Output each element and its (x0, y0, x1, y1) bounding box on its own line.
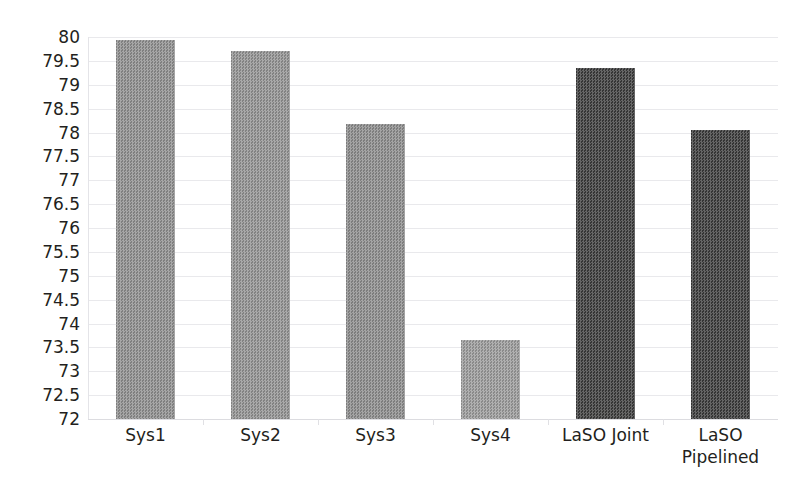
bar-texture (461, 340, 520, 419)
bar-texture (576, 68, 635, 419)
bar-texture (346, 124, 405, 419)
bar-texture (231, 51, 290, 419)
x-axis-labels: Sys1Sys2Sys3Sys4LaSO JointLaSO Pipelined (88, 425, 778, 479)
x-axis-tick-mark (433, 419, 434, 425)
y-axis-tick-label: 72 (58, 409, 80, 429)
x-axis-tick-label: Sys2 (203, 425, 318, 447)
x-axis-tick-mark (318, 419, 319, 425)
x-axis-tick-mark (548, 419, 549, 425)
bar-chart: 8079.57978.57877.57776.57675.57574.57473… (0, 0, 785, 479)
plot-area (88, 37, 778, 419)
bar (691, 130, 750, 419)
bar (346, 124, 405, 419)
y-axis-labels: 8079.57978.57877.57776.57675.57574.57473… (0, 0, 88, 479)
bar (576, 68, 635, 419)
y-axis-tick-label: 80 (58, 27, 80, 47)
y-axis-tick-label: 79 (58, 75, 80, 95)
y-axis-tick-label: 74.5 (42, 290, 80, 310)
x-axis-tick-label: Sys3 (318, 425, 433, 447)
y-axis-tick-label: 76.5 (42, 194, 80, 214)
x-axis-tick-label: LaSO Pipelined (663, 425, 778, 469)
bar-texture (116, 40, 175, 419)
y-axis-tick-label: 75.5 (42, 242, 80, 262)
x-axis-tick-mark (203, 419, 204, 425)
bar (461, 340, 520, 419)
y-axis-tick-label: 78.5 (42, 99, 80, 119)
x-axis-tick-mark (663, 419, 664, 425)
bar-texture (691, 130, 750, 419)
x-axis-tick-label: Sys4 (433, 425, 548, 447)
y-axis-tick-label: 77 (58, 170, 80, 190)
y-axis-tick-label: 73 (58, 361, 80, 381)
bars (88, 37, 778, 419)
bar (231, 51, 290, 419)
x-axis-tick-label: Sys1 (88, 425, 203, 447)
y-axis-tick-label: 78 (58, 123, 80, 143)
y-axis-tick-label: 79.5 (42, 51, 80, 71)
x-axis-tick-label: LaSO Joint (548, 425, 663, 447)
y-axis-tick-label: 74 (58, 314, 80, 334)
y-axis-tick-label: 73.5 (42, 337, 80, 357)
y-axis-tick-label: 76 (58, 218, 80, 238)
y-axis-tick-label: 72.5 (42, 385, 80, 405)
y-axis-tick-label: 77.5 (42, 146, 80, 166)
bar (116, 40, 175, 419)
y-axis-tick-label: 75 (58, 266, 80, 286)
